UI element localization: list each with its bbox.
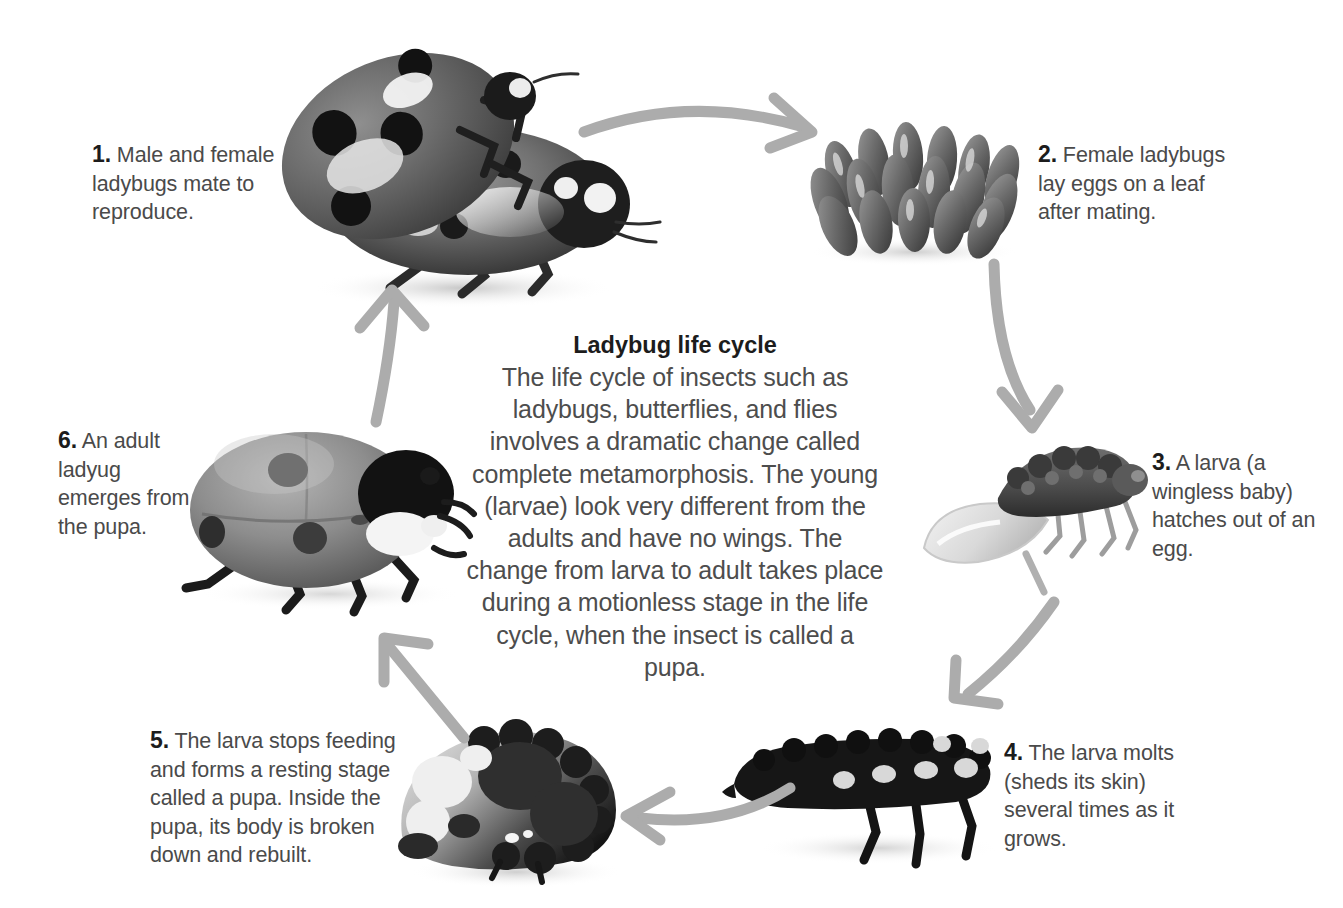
step-3-number: 3. [1152,449,1171,475]
step-1-text: Male and female ladybugs mate to reprodu… [92,143,274,224]
arrow-step2-to-step3 [962,258,1092,438]
step-6-text: An adult ladyug emerges from the pupa. [58,429,189,539]
center-description-block: Ladybug life cycle The life cycle of ins… [465,330,885,683]
step-4-text: The larva molts (sheds its skin) several… [1004,741,1174,851]
step-2-text: Female ladybugs lay eggs on a leaf after… [1038,143,1225,224]
adult-ladybug-photo [178,398,478,628]
step-3-text: A larva (a wingless baby) hatches out of… [1152,451,1315,561]
step-4-caption: 4. The larva molts (sheds its skin) seve… [1004,738,1214,853]
diagram-title: Ladybug life cycle [465,330,885,360]
step-1-caption: 1. Male and female ladybugs mate to repr… [92,140,292,227]
arrow-step6-to-step1 [332,272,462,432]
ladybug-life-cycle-diagram: 1. Male and female ladybugs mate to repr… [0,0,1343,908]
diagram-description: The life cycle of insects such as ladybu… [465,361,885,683]
step-3-caption: 3. A larva (a wingless baby) hatches out… [1152,448,1330,563]
step-1-number: 1. [92,141,111,167]
ladybug-eggs-photo [798,118,1028,268]
step-2-number: 2. [1038,141,1057,167]
hatching-larva-photo [908,428,1158,598]
step-4-number: 4. [1004,739,1023,765]
step-5-number: 5. [150,727,169,753]
step-2-caption: 2. Female ladybugs lay eggs on a leaf af… [1038,140,1238,227]
step-6-caption: 6. An adult ladyug emerges from the pupa… [58,426,208,541]
step-6-number: 6. [58,427,77,453]
